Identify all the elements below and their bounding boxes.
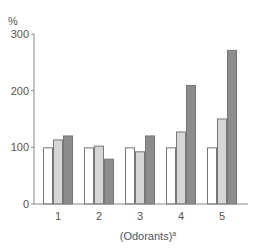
bars bbox=[44, 50, 237, 204]
bar bbox=[64, 136, 73, 204]
bar bbox=[85, 148, 94, 204]
bar bbox=[95, 146, 104, 204]
x-tick-label: 4 bbox=[178, 210, 184, 222]
x-tick-label: 1 bbox=[55, 210, 61, 222]
bar bbox=[126, 148, 135, 204]
bar bbox=[177, 132, 186, 204]
bar-group-2 bbox=[85, 146, 114, 204]
x-axis: 12345 bbox=[34, 204, 248, 222]
x-axis-title: (Odorants)a bbox=[120, 230, 177, 242]
bar bbox=[54, 140, 63, 204]
bar bbox=[146, 136, 155, 204]
bar-group-5 bbox=[208, 50, 237, 204]
y-unit-label: % bbox=[8, 15, 18, 27]
x-tick-label: 2 bbox=[96, 210, 102, 222]
bar bbox=[187, 86, 196, 205]
bar bbox=[208, 148, 217, 204]
bar-group-3 bbox=[126, 136, 155, 204]
y-tick-label: 0 bbox=[23, 198, 29, 210]
bar bbox=[228, 50, 237, 204]
bar bbox=[218, 119, 227, 204]
y-tick-label: 100 bbox=[11, 141, 29, 153]
bar bbox=[167, 148, 176, 204]
y-axis: 0100200300 bbox=[11, 28, 34, 210]
bar bbox=[136, 152, 145, 204]
bar-chart: % 0100200300 12345 (Odorants)a bbox=[0, 0, 260, 248]
bar-group-4 bbox=[167, 86, 196, 205]
bar-group-1 bbox=[44, 136, 73, 204]
bar bbox=[44, 148, 53, 204]
bar bbox=[105, 159, 114, 204]
x-tick-label: 5 bbox=[219, 210, 225, 222]
y-tick-label: 300 bbox=[11, 28, 29, 40]
y-tick-label: 200 bbox=[11, 85, 29, 97]
x-tick-label: 3 bbox=[137, 210, 143, 222]
